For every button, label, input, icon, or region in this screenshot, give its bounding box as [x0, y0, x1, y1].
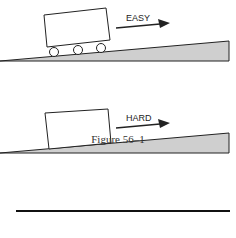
wheel-icon: [74, 46, 83, 55]
wheel-icon: [97, 44, 106, 53]
arrow-hard: [116, 124, 160, 128]
horizontal-rule: [16, 210, 230, 212]
wheel-icon: [50, 48, 59, 57]
figure-caption: Figure 56–1: [0, 133, 236, 145]
cart-body: [44, 8, 110, 47]
incline-figure: EASY HARD: [0, 0, 236, 238]
label-easy: EASY: [126, 13, 150, 23]
ramp-top: [0, 41, 229, 61]
arrowhead-icon: [158, 119, 170, 128]
label-hard: HARD: [126, 113, 152, 123]
arrow-easy: [116, 24, 160, 28]
arrowhead-icon: [158, 19, 170, 28]
